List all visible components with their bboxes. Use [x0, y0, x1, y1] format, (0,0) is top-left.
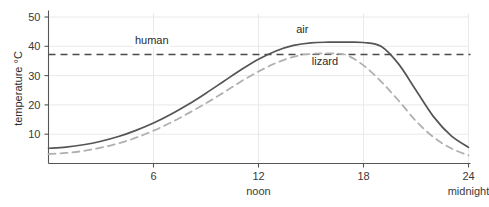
series-label-lizard: lizard	[312, 55, 338, 67]
y-axis-title: temperature °C	[12, 51, 24, 126]
y-tick-label: 20	[28, 99, 40, 111]
chart-canvas: 1020304050 6121824 noonmidnight airlizar…	[0, 0, 489, 207]
x-tick-label: 24	[462, 170, 474, 182]
x-axis-tick-labels: 6121824	[150, 170, 474, 182]
x-tick-label: 12	[252, 170, 264, 182]
x-axis-sublabels: noonmidnight	[246, 185, 489, 197]
reference-line-group	[49, 34, 471, 55]
series-label-air: air	[296, 23, 309, 35]
y-tick-label: 30	[28, 70, 40, 82]
y-tick-label: 50	[28, 11, 40, 23]
x-tick-sublabel: noon	[246, 185, 270, 197]
x-tick-sublabel: midnight	[448, 185, 489, 197]
x-axis-tick-marks	[154, 164, 469, 168]
y-axis-tick-labels: 1020304050	[28, 11, 40, 140]
reference-label-group: human	[135, 34, 169, 46]
temperature-chart: 1020304050 6121824 noonmidnight airlizar…	[0, 0, 489, 207]
series-label-group: airlizard	[289, 23, 348, 68]
y-axis-tick-marks	[45, 17, 49, 134]
axes	[49, 11, 471, 164]
gridlines	[49, 14, 469, 164]
y-tick-label: 10	[28, 128, 40, 140]
x-tick-label: 6	[150, 170, 156, 182]
x-tick-label: 18	[357, 170, 369, 182]
y-tick-label: 40	[28, 40, 40, 52]
reference-label-human: human	[135, 34, 169, 46]
